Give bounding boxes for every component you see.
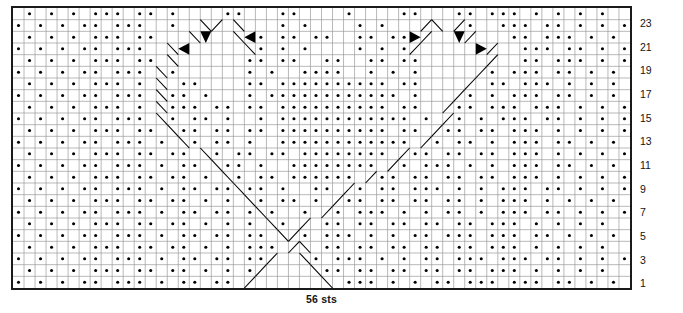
stitch-count-caption: 56 sts bbox=[11, 293, 632, 305]
row-number-23: 23 bbox=[640, 18, 666, 30]
row-number-13: 13 bbox=[640, 136, 666, 148]
row-number-9: 9 bbox=[640, 184, 666, 196]
row-number-17: 17 bbox=[640, 89, 666, 101]
row-number-3: 3 bbox=[640, 255, 666, 267]
row-number-axis: 2321191715131197531 bbox=[640, 6, 680, 290]
chart-grid[interactable] bbox=[11, 6, 632, 290]
row-number-21: 21 bbox=[640, 42, 666, 54]
row-number-5: 5 bbox=[640, 231, 666, 243]
row-number-19: 19 bbox=[640, 65, 666, 77]
row-number-15: 15 bbox=[640, 113, 666, 125]
chart-grid-svg bbox=[13, 8, 630, 288]
knitting-chart: 2321191715131197531 56 sts bbox=[0, 0, 683, 313]
row-number-1: 1 bbox=[640, 278, 666, 290]
row-number-7: 7 bbox=[640, 207, 666, 219]
row-number-11: 11 bbox=[640, 160, 666, 172]
